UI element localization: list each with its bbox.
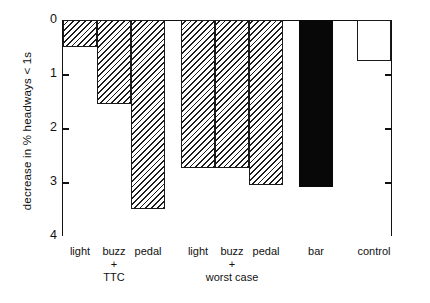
x-label-group1-pedal: pedal <box>126 246 170 258</box>
y-tick-label-3: 3 <box>27 175 57 188</box>
group1-caption: TTC <box>82 271 146 284</box>
bar-group2-pedal <box>249 20 283 185</box>
bar-bar <box>299 20 333 187</box>
bar-control <box>357 20 391 61</box>
bar-group2-light <box>181 20 215 168</box>
x-label-group2-pedal: pedal <box>244 246 288 258</box>
y-tick-label-1: 1 <box>27 67 57 80</box>
x-label-bar: bar <box>294 246 338 258</box>
y-tick-label-2: 2 <box>27 121 57 134</box>
y-tick-label-4: 4 <box>27 229 57 242</box>
x-label-control: control <box>349 246 399 258</box>
group1-plus-sign: + <box>92 258 136 271</box>
bar-group1-buzz <box>97 20 131 104</box>
y-tick-label-0: 0 <box>27 13 57 26</box>
bar-chart-figure: decrease in % headways < 1s 0 1 2 3 4 li… <box>0 0 430 303</box>
bar-group1-light <box>63 20 97 47</box>
bar-group2-buzz <box>215 20 249 168</box>
group2-plus-sign: + <box>210 258 254 271</box>
bar-group1-pedal <box>131 20 165 209</box>
group2-caption: worst case <box>190 271 274 284</box>
